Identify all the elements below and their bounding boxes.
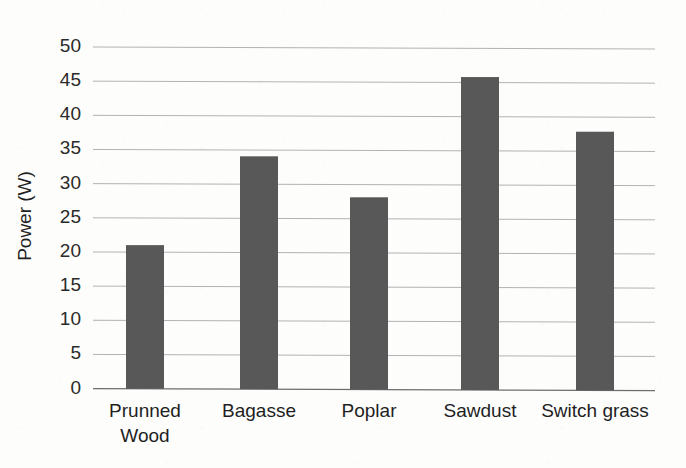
x-category-label: Switch grass bbox=[541, 400, 649, 421]
y-tick-label: 35 bbox=[60, 137, 81, 158]
bar bbox=[240, 156, 278, 389]
x-category-label: Bagasse bbox=[222, 400, 296, 421]
bar bbox=[461, 77, 499, 390]
y-tick-label: 25 bbox=[60, 206, 81, 227]
y-tick-label: 50 bbox=[60, 35, 81, 56]
gridline bbox=[93, 81, 655, 83]
gridline bbox=[93, 149, 655, 151]
gridline bbox=[93, 115, 655, 117]
x-category-label: Poplar bbox=[342, 400, 398, 421]
y-tick-label: 40 bbox=[60, 103, 81, 124]
y-tick-label: 30 bbox=[60, 172, 81, 193]
x-category-label: Prunned bbox=[109, 400, 181, 421]
y-tick-label: 20 bbox=[60, 240, 81, 261]
chart-canvas: 50454035302520151050 PrunnedWoodBagasseP… bbox=[0, 0, 686, 468]
bar bbox=[350, 197, 388, 389]
y-axis-title: Power (W) bbox=[14, 171, 35, 261]
bar bbox=[126, 245, 164, 389]
bar bbox=[576, 132, 614, 391]
x-category-label: Sawdust bbox=[444, 400, 518, 421]
y-tick-label: 10 bbox=[60, 308, 81, 329]
y-tick-label: 5 bbox=[70, 342, 81, 363]
gridline bbox=[93, 184, 655, 186]
x-axis-category-labels: PrunnedWoodBagassePoplarSawdustSwitch gr… bbox=[109, 400, 649, 446]
y-tick-label: 15 bbox=[60, 274, 81, 295]
gridline bbox=[93, 47, 655, 49]
y-tick-label: 45 bbox=[60, 69, 81, 90]
x-category-label: Wood bbox=[120, 425, 169, 446]
y-axis-tick-labels: 50454035302520151050 bbox=[60, 35, 81, 398]
bar-chart-figure: 50454035302520151050 PrunnedWoodBagasseP… bbox=[0, 0, 686, 468]
y-tick-label: 0 bbox=[70, 377, 81, 398]
bar-series bbox=[126, 77, 614, 390]
